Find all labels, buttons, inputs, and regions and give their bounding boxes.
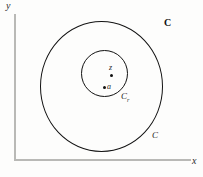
y-axis-label: y (6, 1, 10, 11)
point-label-a: a (107, 83, 111, 91)
complex-plane-label: C (164, 18, 171, 28)
x-axis (14, 159, 191, 161)
curve-label-C: C (152, 131, 158, 140)
curve-label-Cr: Cr (121, 92, 129, 103)
curve-label-Cr-subscript: r (127, 97, 129, 103)
point-dot-a (103, 86, 106, 89)
inner-circle-Cr (81, 50, 128, 97)
y-axis (14, 14, 16, 161)
point-dot-z (110, 74, 113, 77)
complex-plane-figure: y x z a Cr C C (0, 0, 203, 177)
x-axis-label: x (192, 156, 196, 166)
point-label-z: z (109, 64, 112, 72)
